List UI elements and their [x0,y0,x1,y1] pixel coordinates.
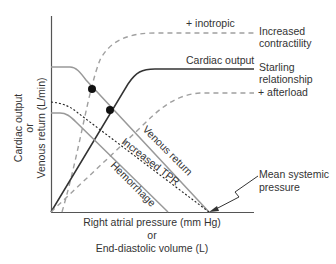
label-inotropic: + inotropic [186,17,235,29]
y-axis-title-2: or [23,123,35,133]
x-axis-title-1: Right atrial pressure (mm Hg) [83,216,221,228]
y-axis-title-3: Venous return (L/min) [35,78,47,179]
x-axis-title-2: or [147,229,157,241]
intersection-dot-cardiac-output [106,106,114,114]
label-increased-contractility-1: Increased [259,25,305,37]
cardiac-function-diagram: + inotropic Increased contractility Card… [0,0,336,264]
label-cardiac-output: Cardiac output [186,54,254,66]
intersection-dot-inotropic [88,85,96,93]
label-increased-contractility-2: contractility [259,37,312,49]
label-afterload: + afterload [258,86,308,98]
annotation-mean-systemic-2: pressure [259,181,300,193]
label-starling-1: Starling [259,61,295,73]
x-axis-title-3: End-diastolic volume (L) [96,242,209,254]
label-starling-2: relationship [259,73,313,85]
arrowhead-icon [209,206,219,212]
mean-systemic-pressure-arrow [214,176,258,210]
annotation-mean-systemic-1: Mean systemic [259,168,329,180]
increased-tpr-curve [51,102,209,212]
